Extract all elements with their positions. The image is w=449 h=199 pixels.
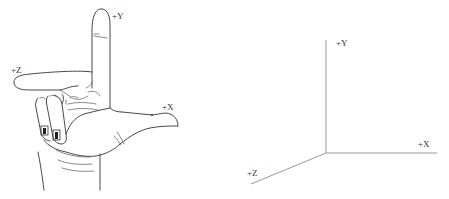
axes-icon (0, 0, 449, 199)
coordinate-system-figure: +Y +Z +X +Y +X +Z (0, 0, 449, 199)
z-axis-line (251, 153, 326, 184)
axes-label-x: +X (418, 140, 430, 149)
axes-label-y: +Y (336, 39, 348, 48)
axes-label-z: +Z (247, 169, 258, 178)
